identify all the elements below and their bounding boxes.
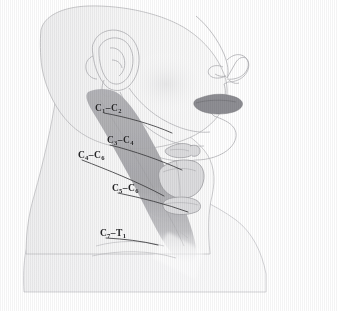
label-c3-c4: C3–C4 xyxy=(107,136,134,146)
illustration-canvas xyxy=(0,0,337,311)
cervical-dermatome-figure: C1–C2 C3–C4 C4–C6 C5–C6 C7–T1 xyxy=(0,0,337,311)
label-c3-c4-text: C3–C4 xyxy=(107,135,134,145)
label-c7-t1-text: C7–T1 xyxy=(100,228,126,238)
label-c1-c2-text: C1–C2 xyxy=(95,103,122,113)
label-c4-c6: C4–C6 xyxy=(78,151,105,161)
label-c1-c2: C1–C2 xyxy=(95,104,122,114)
label-c5-c6-text: C5–C6 xyxy=(112,183,139,193)
label-c5-c6: C5–C6 xyxy=(112,184,139,194)
label-c7-t1: C7–T1 xyxy=(100,229,126,239)
label-c4-c6-text: C4–C6 xyxy=(78,150,105,160)
